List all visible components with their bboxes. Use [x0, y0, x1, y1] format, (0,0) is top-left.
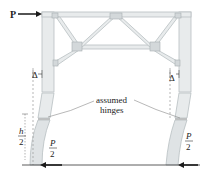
delta-right-label: Δ [169, 73, 175, 83]
right-reaction-num: P [185, 131, 192, 141]
portal-frame-diagram: Δ Δ P assumed hinges h 2 P 2 P [0, 0, 208, 174]
annotation-assumed: assumed [96, 95, 127, 105]
load-label: P [10, 9, 16, 20]
right-reaction-den: 2 [186, 142, 191, 152]
delta-left-label: Δ [32, 70, 38, 80]
delta-right-marker: Δ [169, 70, 179, 83]
delta-left-marker: Δ [32, 70, 42, 80]
left-reaction-num: P [49, 138, 56, 148]
arrow-left-icon [178, 162, 184, 168]
annotation-hinges: hinges [100, 105, 124, 115]
half-height-dimension: h 2 [18, 114, 28, 160]
arrow-right-icon [36, 11, 42, 17]
truss-braces [54, 16, 179, 66]
applied-load: P [10, 9, 42, 20]
h-denominator: 2 [19, 137, 24, 147]
left-reaction-den: 2 [50, 149, 55, 159]
bottom-chord [78, 45, 154, 49]
h-numerator: h [19, 126, 24, 136]
